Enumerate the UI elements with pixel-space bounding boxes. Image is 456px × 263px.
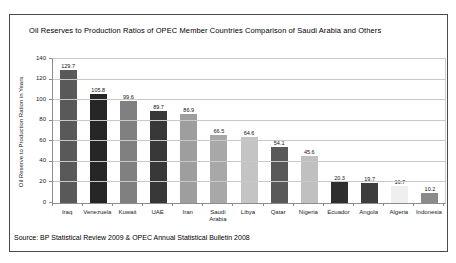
bar-qatar xyxy=(271,147,288,203)
bar-value-label: 20.3 xyxy=(334,175,345,181)
bar-value-label: 19.7 xyxy=(364,176,375,182)
y-tick-label-120: 120 xyxy=(20,75,46,81)
x-tick-kuwait xyxy=(113,203,143,206)
bar-slot-ecuador: 20.3 xyxy=(324,59,354,203)
x-axis-label-qatar: Qatar xyxy=(263,208,293,223)
source-note: Source: BP Statistical Review 2009 & OPE… xyxy=(14,234,250,241)
x-tick-iran xyxy=(173,203,203,206)
plot-area: 129.7105.899.689.786.966.564.654.145.620… xyxy=(52,58,446,204)
bar-value-label: 89.7 xyxy=(153,104,164,110)
bar-slot-saudi-arabia: 66.5 xyxy=(204,59,234,203)
x-axis-label-kuwait: Kuwait xyxy=(112,208,142,223)
bar-slot-iraq: 129.7 xyxy=(53,59,83,203)
y-tick-mark-100 xyxy=(49,99,52,100)
x-axis-label-nigeria: Nigeria xyxy=(293,208,323,223)
bar-slot-qatar: 54.1 xyxy=(264,59,294,203)
x-axis-label-iran: Iran xyxy=(173,208,203,223)
y-tick-label-100: 100 xyxy=(20,96,46,102)
bar-slot-iran: 86.9 xyxy=(174,59,204,203)
bar-venezuela xyxy=(90,94,107,203)
bar-slot-libya: 64.6 xyxy=(234,59,264,203)
x-tick-algeria xyxy=(384,203,414,206)
x-axis-label-algeria: Algeria xyxy=(384,208,414,223)
chart-title: Oil Reserves to Production Ratios of OPE… xyxy=(29,26,381,35)
bars-container: 129.7105.899.689.786.966.564.654.145.620… xyxy=(53,59,445,203)
chart-page: Oil Reserves to Production Ratios of OPE… xyxy=(0,0,456,263)
x-tick-uae xyxy=(143,203,173,206)
x-axis-label-angola: Angola xyxy=(354,208,384,223)
x-tick-venezuela xyxy=(83,203,113,206)
y-tick-label-40: 40 xyxy=(20,157,46,163)
x-axis-label-saudi-arabia: Saudi Arabia xyxy=(203,208,233,223)
y-tick-label-20: 20 xyxy=(20,178,46,184)
bar-slot-venezuela: 105.8 xyxy=(83,59,113,203)
y-tick-mark-20 xyxy=(49,181,52,182)
x-tick-libya xyxy=(233,203,263,206)
bar-slot-indonesia: 10.2 xyxy=(415,59,445,203)
bar-nigeria xyxy=(301,156,318,203)
bar-kuwait xyxy=(120,101,137,203)
bar-ecuador xyxy=(331,182,348,203)
bar-indonesia xyxy=(421,193,438,203)
y-tick-label-80: 80 xyxy=(20,116,46,122)
bar-value-label: 10.2 xyxy=(425,186,436,192)
y-tick-mark-40 xyxy=(49,161,52,162)
bar-uae xyxy=(150,111,167,203)
bar-slot-algeria: 16.7 xyxy=(385,59,415,203)
x-axis-label-ecuador: Ecuador xyxy=(323,208,353,223)
y-tick-mark-60 xyxy=(49,140,52,141)
y-tick-label-60: 60 xyxy=(20,137,46,143)
bar-value-label: 86.9 xyxy=(183,107,194,113)
bar-value-label: 66.5 xyxy=(214,128,225,134)
x-axis-label-iraq: Iraq xyxy=(52,208,82,223)
bar-value-label: 54.1 xyxy=(274,140,285,146)
x-tick-nigeria xyxy=(294,203,324,206)
bar-value-label: 105.8 xyxy=(91,87,105,93)
bar-value-label: 16.7 xyxy=(394,179,405,185)
bar-iraq xyxy=(60,70,77,203)
bar-angola xyxy=(361,183,378,203)
bar-value-label: 45.6 xyxy=(304,149,315,155)
chart-frame: Oil Reserves to Production Ratios of OPE… xyxy=(9,14,448,252)
x-axis-label-uae: UAE xyxy=(142,208,172,223)
x-axis-label-venezuela: Venezuela xyxy=(82,208,112,223)
bar-iran xyxy=(180,114,197,203)
y-tick-mark-120 xyxy=(49,79,52,80)
x-axis-labels: IraqVenezuelaKuwaitUAEIranSaudi ArabiaLi… xyxy=(52,208,444,223)
bar-slot-uae: 89.7 xyxy=(143,59,173,203)
bar-value-label: 64.6 xyxy=(244,130,255,136)
bar-slot-nigeria: 45.6 xyxy=(294,59,324,203)
y-tick-label-140: 140 xyxy=(20,55,46,61)
y-tick-label-0: 0 xyxy=(20,199,46,205)
x-tick-qatar xyxy=(264,203,294,206)
bar-slot-kuwait: 99.6 xyxy=(113,59,143,203)
y-tick-mark-140 xyxy=(49,58,52,59)
x-tick-saudi-arabia xyxy=(203,203,233,206)
bar-algeria xyxy=(391,186,408,203)
bar-libya xyxy=(241,137,258,203)
x-tick-indonesia xyxy=(414,203,444,206)
x-axis-ticks xyxy=(52,203,444,206)
bar-value-label: 129.7 xyxy=(61,63,75,69)
bar-slot-angola: 19.7 xyxy=(355,59,385,203)
x-axis-label-libya: Libya xyxy=(233,208,263,223)
bar-saudi-arabia xyxy=(210,135,227,203)
x-tick-iraq xyxy=(52,203,83,206)
x-tick-ecuador xyxy=(324,203,354,206)
x-tick-angola xyxy=(354,203,384,206)
y-tick-mark-80 xyxy=(49,120,52,121)
bar-value-label: 99.6 xyxy=(123,94,134,100)
x-axis-label-indonesia: Indonesia xyxy=(414,208,444,223)
